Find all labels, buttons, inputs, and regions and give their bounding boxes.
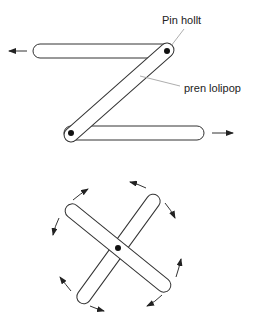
rotation-arrow-icon	[53, 218, 59, 235]
rotation-arrow-icon	[130, 182, 146, 188]
upper-pin	[164, 48, 170, 54]
lower-pin	[68, 130, 74, 136]
pin-label: Pin hollt	[162, 14, 201, 26]
center-pin	[115, 245, 121, 251]
rotation-arrow-icon	[147, 295, 162, 306]
rotation-arrow-icon	[60, 277, 71, 291]
rotation-arrow-icon	[73, 189, 88, 200]
rotation-arrow-icon	[90, 306, 104, 311]
pin-leader-line	[171, 29, 184, 46]
bottom-figure	[53, 182, 181, 311]
lollipop-leader-line	[140, 76, 180, 86]
diagram-canvas: Pin hollt pren lolipop	[0, 0, 253, 312]
lollipop-label: pren lolipop	[184, 82, 241, 94]
rotation-arrow-icon	[165, 203, 175, 218]
rotation-arrow-icon	[176, 259, 181, 277]
top-figure: Pin hollt pren lolipop	[9, 14, 241, 145]
